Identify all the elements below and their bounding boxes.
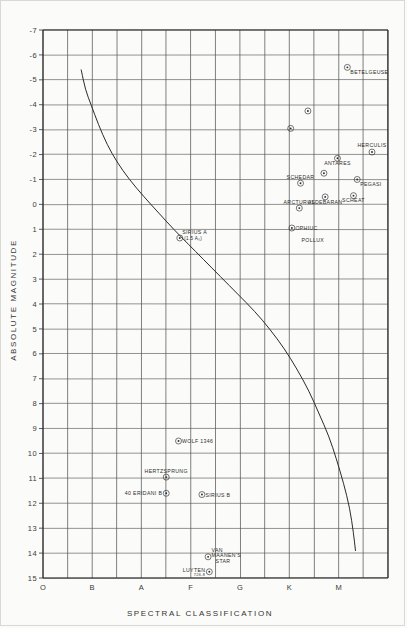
star-entry: BETELGEUSE <box>344 64 388 75</box>
x-tick-label: G <box>237 583 243 592</box>
y-tick-label: 4 <box>32 300 37 309</box>
star-entry: SCHEDAR <box>287 174 315 187</box>
star-markers-layer: BETELGEUSEHERCULISANTARESPEGASISCHEDARSC… <box>125 64 389 577</box>
x-tick-label: K <box>287 583 292 592</box>
star-entry: POLLUX <box>302 237 325 243</box>
y-tick-label: 13 <box>28 524 37 533</box>
star-label: 40 ERIDANI B <box>125 490 163 496</box>
star-marker-core <box>290 127 292 129</box>
star-entry: 40 ERIDANI B <box>125 490 169 496</box>
star-marker-core <box>371 151 373 153</box>
star-entry <box>305 108 311 114</box>
y-tick-label: 12 <box>28 499 37 508</box>
star-entry <box>321 170 327 176</box>
star-label: HERTZSPRUNG <box>145 468 188 474</box>
x-tick-label: O <box>40 583 46 592</box>
star-label: PEGASI <box>360 181 381 187</box>
y-tick-labels: -7-6-5-4-3-2-10123456789101112131415 <box>28 26 43 583</box>
star-label: VANMAANEN'SSTAR <box>212 547 242 563</box>
y-tick-label: 8 <box>32 399 37 408</box>
star-label: POLLUX <box>302 237 325 243</box>
y-tick-label: 0 <box>32 200 37 209</box>
star-marker-core <box>165 492 167 494</box>
star-entry: VANMAANEN'SSTAR <box>205 547 241 563</box>
y-tick-label: -4 <box>30 100 37 109</box>
star-entry: WOLF 1346 <box>176 438 214 444</box>
y-tick-label: -2 <box>30 150 37 159</box>
star-marker-core <box>346 66 348 68</box>
star-marker-core <box>165 476 167 478</box>
y-tick-label: -3 <box>30 125 37 134</box>
star-entry: OPHIUC <box>289 225 318 231</box>
star-label: BETELGEUSE <box>350 69 388 75</box>
star-entry: SIRIUS B <box>199 492 231 498</box>
y-tick-label: 5 <box>32 325 37 334</box>
y-tick-label: 11 <box>28 474 37 483</box>
y-tick-label: 2 <box>32 250 37 259</box>
star-entry: SIRIUS A(1.5 A₀) <box>177 229 207 241</box>
star-entry: LUYTEN726-8 <box>183 567 213 578</box>
star-marker-core <box>298 207 300 209</box>
x-tick-label: A <box>139 583 144 592</box>
star-marker-core <box>300 182 302 184</box>
star-marker-core <box>179 237 181 239</box>
star-marker-core <box>356 179 358 181</box>
y-tick-label: -1 <box>30 175 37 184</box>
star-marker-core <box>207 556 209 558</box>
star-entry: HERCULIS <box>357 142 386 155</box>
y-tick-label: -6 <box>30 51 37 60</box>
star-label: SCHEDAR <box>287 174 315 180</box>
star-label: WOLF 1346 <box>182 438 213 444</box>
star-entry: SCHEAT <box>342 193 365 204</box>
x-axis-title: SPECTRAL CLASSIFICATION <box>127 609 273 618</box>
hr-diagram-plot: -7-6-5-4-3-2-10123456789101112131415 OBA… <box>0 0 407 628</box>
y-tick-label: 7 <box>32 374 37 383</box>
y-tick-label: 3 <box>32 275 37 284</box>
star-label: SIRIUS B <box>205 492 230 498</box>
star-entry <box>288 125 294 131</box>
star-label: SCHEAT <box>342 197 365 203</box>
star-label: LUYTEN726-8 <box>183 567 206 578</box>
star-entry: PEGASI <box>354 176 381 187</box>
star-marker-core <box>291 227 293 229</box>
y-tick-label: 14 <box>28 549 37 558</box>
star-label: ARCTURUS <box>283 199 315 205</box>
star-sub-label: (1.5 A₀) <box>184 236 202 241</box>
star-marker-core <box>201 494 203 496</box>
star-entry: ANTARES <box>324 155 351 166</box>
star-label: HERCULIS <box>357 142 386 148</box>
x-tick-label: B <box>90 583 95 592</box>
y-tick-label: -7 <box>30 26 37 35</box>
star-marker-core <box>323 172 325 174</box>
star-marker-core <box>208 571 210 573</box>
x-tick-label: M <box>335 583 342 592</box>
star-label: SIRIUS A <box>182 229 207 235</box>
star-label: ANTARES <box>324 160 351 166</box>
star-label: OPHIUC <box>295 225 317 231</box>
x-tick-labels: OBAFGKM <box>40 583 342 592</box>
y-tick-label: 9 <box>32 424 37 433</box>
y-axis-title: ABSOLUTE MAGNITUDE <box>9 239 18 361</box>
star-marker-core <box>307 110 309 112</box>
y-tick-label: 15 <box>28 574 37 583</box>
star-marker-core <box>178 440 180 442</box>
hr-diagram-page: -7-6-5-4-3-2-10123456789101112131415 OBA… <box>0 0 407 628</box>
star-marker-core <box>324 196 326 198</box>
y-tick-label: 1 <box>32 225 37 234</box>
y-tick-label: 6 <box>32 349 37 358</box>
y-tick-label: -5 <box>30 75 37 84</box>
x-tick-label: F <box>188 583 193 592</box>
y-tick-label: 10 <box>28 449 37 458</box>
